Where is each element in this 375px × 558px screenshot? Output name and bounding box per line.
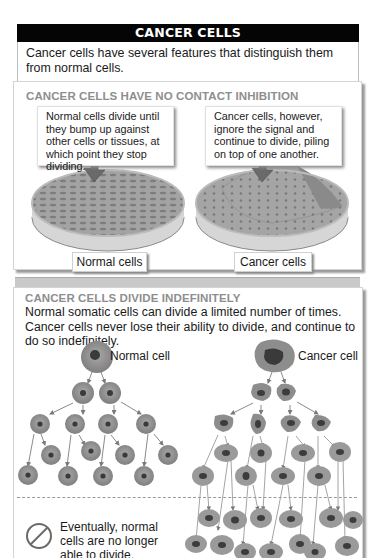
section-title-contact-inhibition: CANCER CELLS HAVE NO CONTACT INHIBITION — [26, 90, 298, 102]
cancer-cells-label: Cancer cells — [234, 252, 312, 272]
normal-cells-label: Normal cells — [72, 252, 147, 272]
normal-cells-callout: Normal cells divide until they bump up a… — [37, 106, 174, 166]
division-limit-line — [17, 497, 357, 498]
page-title: CANCER CELLS — [17, 24, 359, 42]
normal-cell-parent — [81, 341, 113, 373]
cancer-cells-callout: Cancer cells, however, ignore the signal… — [205, 106, 342, 166]
section-title-divide-indefinitely: CANCER CELLS DIVIDE INDEFINITELY — [25, 292, 241, 304]
prohibited-icon — [25, 522, 53, 550]
normal-cell-label: Normal cell — [110, 349, 170, 363]
cancer-cell-parent — [255, 339, 295, 372]
intro-text: Cancer cells have several features that … — [26, 46, 356, 76]
panel-divider-strip — [15, 277, 360, 287]
division-limit-note: Eventually, normal cells are no longer a… — [60, 520, 170, 558]
cancer-cell-label: Cancer cell — [298, 349, 358, 363]
